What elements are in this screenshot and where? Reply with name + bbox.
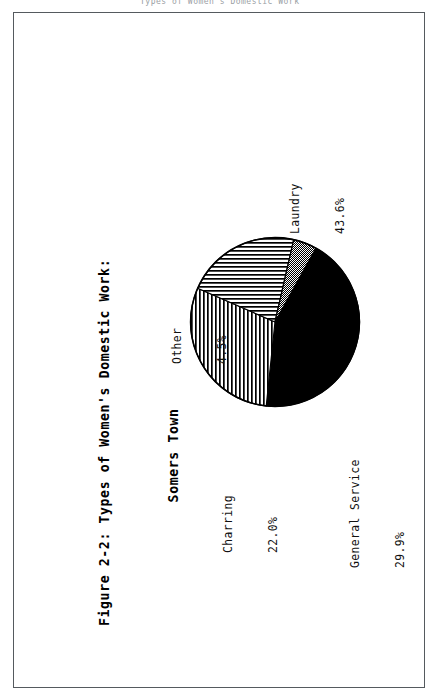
- pie-label-other-value: 4.5%: [215, 320, 230, 364]
- pie-label-other: Other 4.5%: [140, 320, 260, 364]
- pie-label-general-service: General Service 29.9%: [318, 459, 438, 568]
- pie-label-other-name: Other: [170, 320, 185, 364]
- pie-label-charring-value: 22.0%: [266, 495, 281, 553]
- pie-label-laundry-value: 43.6%: [333, 183, 348, 234]
- figure-title-line-1: Figure 2-2: Types of Women's Domestic Wo…: [93, 259, 116, 626]
- pie-label-charring-name: Charring: [221, 495, 236, 553]
- pie-label-general-service-name: General Service: [348, 459, 363, 568]
- pie-label-laundry-name: Laundry: [288, 183, 303, 234]
- scanned-page: Types of Women's Domestic Work Figure 2-…: [0, 0, 448, 695]
- pie-label-charring: Charring 22.0%: [191, 495, 311, 553]
- page-header-faint-text: Types of Women's Domestic Work: [140, 0, 315, 7]
- figure-title-line-2: Somers Town: [162, 259, 185, 626]
- figure-region: Figure 2-2: Types of Women's Domestic Wo…: [13, 12, 425, 688]
- pie-label-general-service-value: 29.9%: [393, 459, 408, 568]
- pie-label-laundry: Laundry 43.6%: [258, 183, 378, 234]
